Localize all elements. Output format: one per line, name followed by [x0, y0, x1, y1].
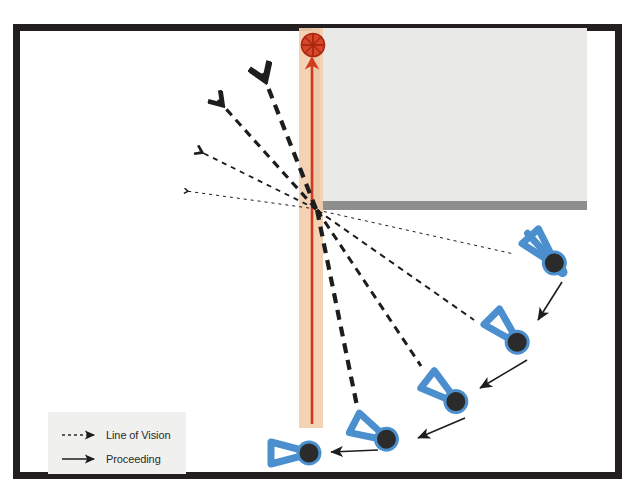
- diagram-canvas: Line of Vision Proceeding: [0, 0, 638, 497]
- legend-box: Line of Vision Proceeding: [48, 412, 186, 474]
- legend-label-line-of-vision: Line of Vision: [106, 429, 170, 441]
- legend-label-proceeding: Proceeding: [106, 453, 161, 465]
- building-fill: [319, 28, 587, 206]
- building-bottom-edge: [316, 201, 587, 210]
- crosshair-target-marker: [301, 33, 325, 57]
- building-block: [313, 28, 587, 210]
